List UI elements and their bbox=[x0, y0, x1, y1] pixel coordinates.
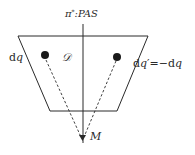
left-charge-label: dq bbox=[9, 51, 23, 64]
left-charge-dot bbox=[41, 51, 49, 59]
axis-label: π*:PAS bbox=[64, 8, 98, 19]
point-label: M bbox=[89, 130, 102, 143]
dashed-line-right bbox=[84, 61, 116, 137]
right-charge-dot bbox=[113, 53, 121, 61]
diagram-svg: π*:PAS 𝒟 dq dq′=−dq M bbox=[0, 0, 195, 155]
right-charge-label: dq′=−dq bbox=[133, 57, 182, 70]
diagram-canvas: π*:PAS 𝒟 dq dq′=−dq M bbox=[0, 0, 195, 155]
dashed-line-left bbox=[46, 60, 81, 137]
arrowhead-icon bbox=[79, 135, 86, 141]
region-label: 𝒟 bbox=[62, 51, 73, 64]
